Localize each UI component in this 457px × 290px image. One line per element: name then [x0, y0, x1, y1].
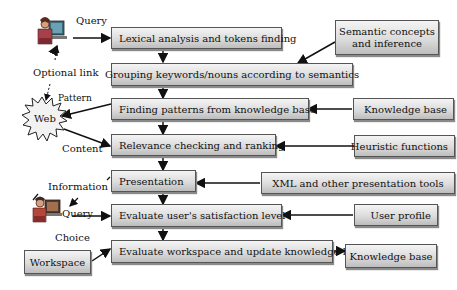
step-grouping-keywords-label: Grouping keywords/nouns according to sem… — [105, 69, 359, 80]
step-presentation-label: Presentation — [119, 176, 184, 187]
step-lexical-analysis: Lexical analysis and tokens finding — [111, 27, 282, 49]
input-user-profile-label: User profile — [371, 210, 431, 221]
output-knowledge-base-2-label: Knowledge base — [350, 251, 433, 262]
step-finding-patterns-label: Finding patterns from knowledge base — [119, 104, 316, 115]
web-label: Web — [34, 113, 56, 124]
step-lexical-analysis-label: Lexical analysis and tokens finding — [119, 33, 297, 44]
output-knowledge-base-2: Knowledge base — [345, 244, 437, 268]
annotation-query-top: Query — [76, 15, 107, 26]
step-grouping-keywords: Grouping keywords/nouns according to sem… — [111, 63, 353, 86]
annotation-content: Content — [62, 143, 103, 154]
step-relevance-checking: Relevance checking and ranking — [111, 134, 276, 156]
step-finding-patterns: Finding patterns from knowledge base — [111, 98, 309, 120]
annotation-query-bottom: Query — [62, 208, 93, 219]
step-evaluate-workspace: Evaluate workspace and update knowledge … — [111, 240, 333, 263]
annotation-optional-link: Optional link — [33, 67, 99, 78]
input-knowledge-base-1: Knowledge base — [353, 98, 454, 120]
step-evaluate-satisfaction: Evaluate user's satisfaction level — [111, 204, 282, 227]
diagram-canvas: Lexical analysis and tokens finding Grou… — [0, 0, 457, 290]
input-heuristic-functions-label: Heuristic functions — [351, 141, 448, 152]
annotation-pattern: Pattern — [58, 93, 92, 103]
workspace-label: Workspace — [30, 257, 85, 268]
step-presentation: Presentation — [111, 170, 196, 192]
annotation-choice: Choice — [55, 232, 90, 243]
input-xml-tools-label: XML and other presentation tools — [272, 178, 443, 189]
input-knowledge-base-1-label: Knowledge base — [364, 104, 447, 115]
input-semantic-concepts-line1: Semantic concepts — [339, 26, 435, 38]
step-evaluate-workspace-label: Evaluate workspace and update knowledge … — [119, 246, 366, 257]
input-heuristic-functions: Heuristic functions — [354, 135, 455, 157]
input-user-profile: User profile — [354, 204, 438, 226]
input-xml-tools: XML and other presentation tools — [261, 172, 455, 194]
annotation-information: Information — [48, 181, 108, 192]
user-at-computer-icon-bottom — [33, 197, 62, 223]
workspace-box: Workspace — [24, 250, 91, 274]
input-semantic-concepts-line2: and inference — [352, 38, 422, 50]
step-relevance-checking-label: Relevance checking and ranking — [119, 140, 284, 151]
input-semantic-concepts: Semantic concepts and inference — [335, 20, 439, 55]
user-at-computer-icon-top — [38, 17, 67, 50]
step-evaluate-satisfaction-label: Evaluate user's satisfaction level — [119, 210, 285, 221]
